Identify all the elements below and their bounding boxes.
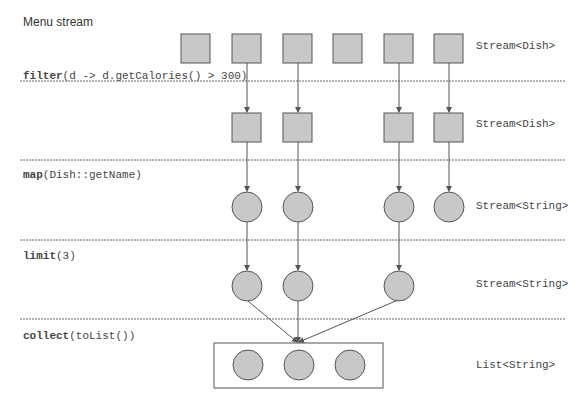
- stream-diagram: [0, 0, 586, 407]
